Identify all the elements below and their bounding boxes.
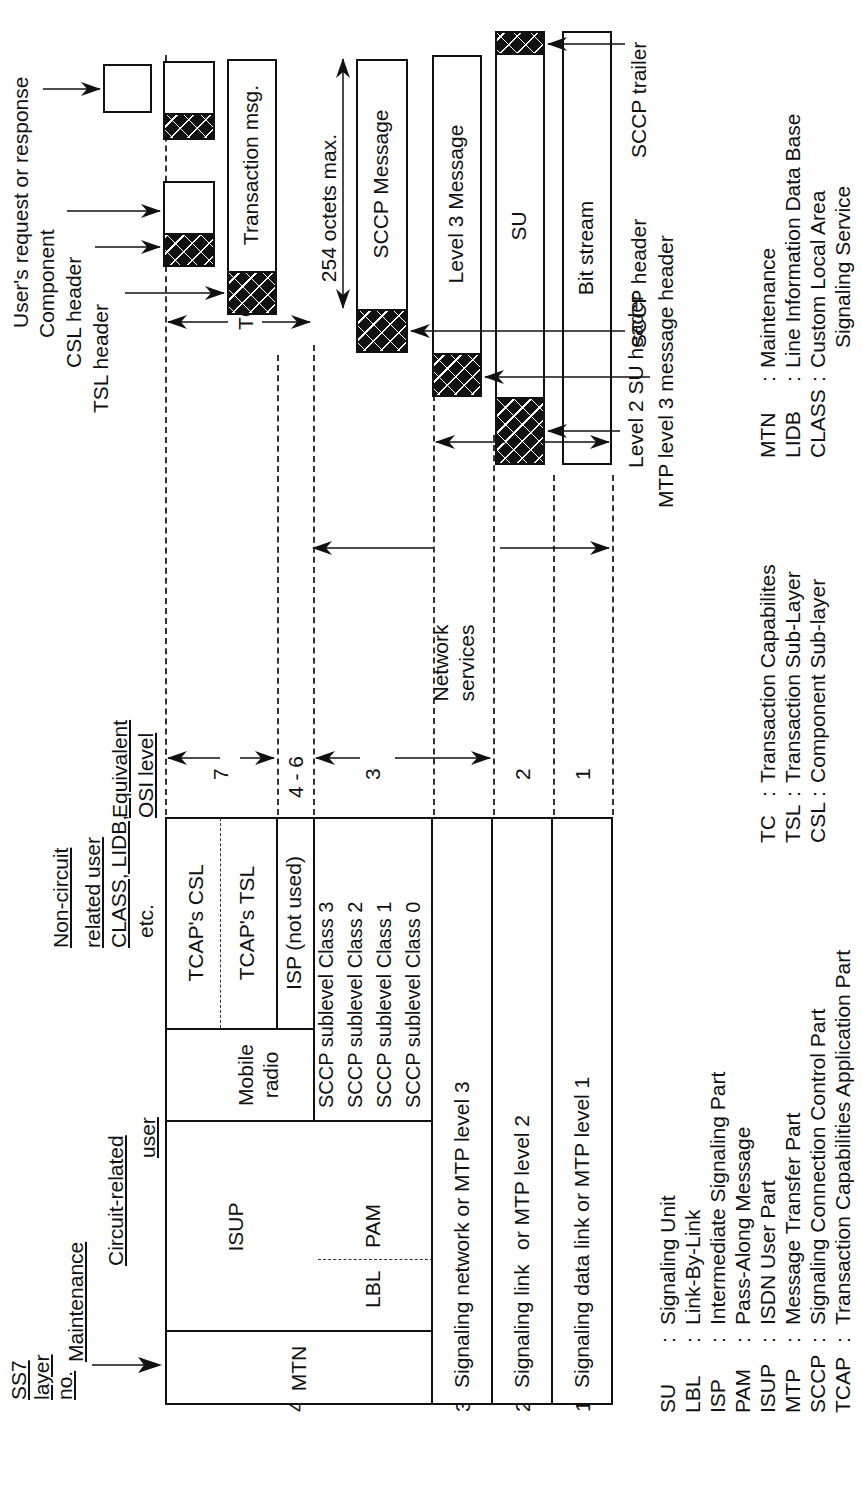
legend-row: CLASS:Custom Local Area: [805, 114, 830, 458]
legend-col-2: TC:Transaction Capabilites TSL:Transacti…: [755, 564, 830, 843]
legend-row: SCCP:Signaling Connection Control Part: [805, 950, 830, 1413]
legend-row: ISUP:ISDN User Part: [755, 950, 780, 1413]
legend-row: ISP:Intermediate Signaling Part: [705, 950, 730, 1413]
legend-row: TSL:Transaction Sub-Layer: [780, 564, 805, 843]
legend-row: LBL:Link-By-Link: [680, 950, 705, 1413]
ss7-protocol-diagram: SS7 layer no. Maintenance Circuit-relate…: [0, 0, 862, 1498]
legend-row: CSL:Component Sub-layer: [805, 564, 830, 843]
legend-row: LIDB:Line Information Data Base: [780, 114, 805, 458]
legend-row: PAM:Pass-Along Message: [730, 950, 755, 1413]
legend-row: TC:Transaction Capabilites: [755, 564, 780, 843]
legend-row: SU:Signaling Unit: [655, 950, 680, 1413]
legend-row: TCAP:Transaction Capabilities Applicatio…: [830, 950, 855, 1413]
legend-row: MTN:Maintenance: [755, 114, 780, 458]
legend-col-3: MTN:Maintenance LIDB:Line Information Da…: [755, 114, 855, 458]
legend-col-1: SU:Signaling Unit LBL:Link-By-Link ISP:I…: [655, 950, 855, 1413]
legend-row: MTP:Message Transfer Part: [780, 950, 805, 1413]
legend-row: Signaling Service: [830, 114, 855, 458]
